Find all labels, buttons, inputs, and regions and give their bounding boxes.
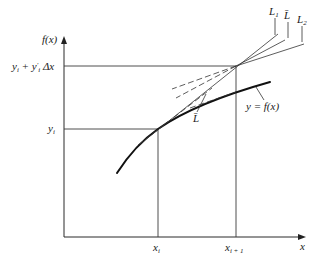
label-L1: L1	[268, 5, 279, 19]
line-Lbar-mid	[138, 88, 212, 145]
xtick-xi1: xi + 1	[224, 241, 244, 255]
leader-Lbar-mid	[197, 94, 206, 112]
curve-f	[117, 82, 270, 173]
y-axis-label: f(x)	[42, 33, 58, 46]
ytick-yi: yi	[47, 122, 55, 136]
ytick-yi-plus: yi + y′i Δx	[11, 60, 54, 74]
xtick-xi: xi	[152, 241, 160, 255]
label-Lbar-top: L̄	[283, 9, 290, 21]
euler-diagram: f(x) x yi + y′i Δx yi xi xi + 1 L1 L̄ L2…	[0, 0, 318, 265]
label-Lbar-mid: L̄	[192, 112, 199, 124]
curve-label: y = f(x)	[245, 100, 279, 113]
label-L2: L2	[296, 13, 307, 27]
line-L2	[236, 44, 304, 66]
leader-curve	[256, 87, 264, 100]
x-axis-label: x	[299, 240, 305, 252]
y-axis-arrow-icon	[61, 36, 67, 44]
line-L2-dash	[172, 66, 236, 89]
line-Lbar-dash	[176, 66, 236, 98]
line-Lbar	[236, 40, 285, 66]
